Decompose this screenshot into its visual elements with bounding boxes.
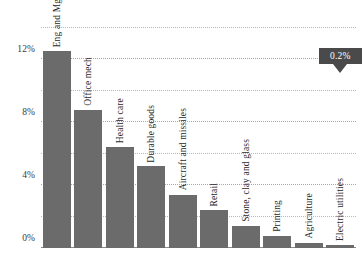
bar-group: Office mech	[73, 20, 105, 248]
bar	[263, 236, 291, 248]
bar-group: Durable goods	[136, 20, 168, 248]
y-axis-tick-label: 4%	[22, 170, 35, 180]
plot-area: 0%4%8%12% Eng and Mgt SvcsOffice mechHea…	[41, 20, 356, 248]
bar-category-label: Health care	[115, 98, 125, 143]
value-callout: 0.2%	[319, 48, 362, 64]
bar-category-label: Agriculture	[304, 193, 314, 238]
bar	[295, 243, 323, 249]
bar-group: Eng and Mgt Svcs	[41, 20, 73, 248]
bar	[43, 51, 71, 248]
bar	[200, 210, 228, 248]
value-callout-label: 0.2%	[330, 51, 351, 61]
y-axis-tick-label: 0%	[22, 233, 35, 243]
y-axis-tick-label: 8%	[22, 107, 35, 117]
bar	[137, 166, 165, 248]
bar-category-label: Electric utilities	[335, 178, 345, 241]
bar-category-label: Aircraft and missiles	[178, 108, 188, 190]
y-axis-tick-label: 12%	[17, 44, 35, 54]
value-callout-pointer	[333, 64, 347, 73]
bar-category-label: Office mech	[83, 57, 93, 106]
bar-group: Aircraft and missiles	[167, 20, 199, 248]
bar-group: Stone, clay and glass	[230, 20, 262, 248]
bar-group: Health care	[104, 20, 136, 248]
bar	[106, 147, 134, 248]
bar-chart: 0%4%8%12% Eng and Mgt SvcsOffice mechHea…	[0, 0, 363, 266]
bar-category-label: Durable goods	[146, 105, 156, 163]
bar-group: Retail	[199, 20, 231, 248]
bar-category-label: Retail	[209, 183, 219, 207]
bar-category-label: Printing	[272, 200, 282, 232]
bar	[169, 195, 197, 248]
bar-group: Printing	[262, 20, 294, 248]
bar-category-label: Eng and Mgt Svcs	[52, 0, 62, 47]
bar-category-label: Stone, clay and glass	[241, 139, 251, 222]
bar	[232, 226, 260, 248]
bar	[74, 110, 102, 248]
bar	[326, 245, 354, 248]
